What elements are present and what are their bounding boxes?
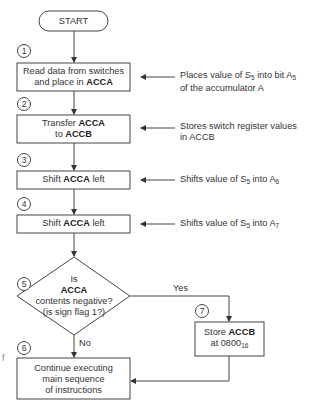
annotation-3: Shifts value of S5 into A6 (180, 174, 279, 187)
ann3-b: into A (250, 174, 276, 184)
step-number-6: 6 (17, 341, 31, 355)
box1-register: ACCA (86, 77, 113, 87)
box4-text-a: Shift (42, 218, 63, 228)
box2-line2: to ACCB (17, 129, 130, 140)
box6-line3: of instructions (17, 385, 130, 396)
ann4-s2: 7 (276, 222, 280, 229)
box4-text-b: left (90, 218, 105, 228)
step-number-1: 1 (17, 44, 31, 58)
process-box-7: Store ACCB at 080016 (195, 327, 264, 351)
annotation-2: Stores switch register values in ACCB (180, 121, 297, 143)
annotation-1: Places value of S5 into bit A5 of the ac… (180, 70, 296, 94)
box2-register-a: ACCA (78, 118, 105, 128)
box2-line2-text: to (55, 129, 65, 139)
box6-line2: main sequence (17, 374, 130, 385)
step-number-7: 7 (195, 304, 209, 318)
decision-register: ACCA (61, 285, 88, 295)
box7-address: at 0800 (211, 338, 242, 348)
process-box-6: Continue executing main sequence of inst… (17, 363, 130, 396)
step-number-4: 4 (17, 197, 31, 211)
box2-line1-text: Transfer (42, 118, 78, 128)
box3-text-a: Shift (42, 174, 63, 184)
ann1-line2: of the accumulator A (180, 83, 296, 94)
ann3-a: Shifts value of S (180, 174, 246, 184)
yes-branch-label: Yes (173, 283, 188, 293)
ann1-a: Places value of S (180, 70, 251, 80)
process-box-4: Shift ACCA left (17, 218, 130, 229)
ann2-line1: Stores switch register values (180, 121, 297, 132)
no-branch-label: No (79, 338, 91, 348)
box7-base: 16 (241, 342, 248, 349)
edge-text-fragment: f (2, 353, 5, 363)
box3-register: ACCA (63, 174, 90, 184)
start-terminator: START (39, 16, 108, 27)
box4-register: ACCA (63, 218, 90, 228)
ann4-a: Shifts value of S (180, 218, 246, 228)
decision-line3: contents negative? (24, 296, 124, 307)
process-box-2: Transfer ACCA to ACCB (17, 118, 130, 140)
decision-line4: (is sign flag 1?) (24, 307, 124, 318)
process-box-3: Shift ACCA left (17, 174, 130, 185)
process-box-1: Read data from switches and place in ACC… (17, 66, 130, 88)
ann2-line2: in ACCB (180, 132, 297, 143)
ann1-b: into bit A (255, 70, 293, 80)
decision-diamond-5: Is ACCA contents negative? (is sign flag… (24, 274, 124, 318)
decision-line1: Is (24, 274, 124, 285)
ann4-b: into A (250, 218, 276, 228)
annotation-4: Shifts value of S5 into A7 (180, 218, 279, 231)
ann3-s2: 6 (276, 178, 280, 185)
box7-register: ACCB (228, 327, 255, 337)
box1-line2-text: and place in (34, 77, 86, 87)
box1-line2: and place in ACCA (17, 77, 130, 88)
box2-line1: Transfer ACCA (17, 118, 130, 129)
start-label: START (59, 16, 88, 26)
ann1-s2: 5 (292, 74, 296, 81)
box3-text-b: left (90, 174, 105, 184)
box2-register-b: ACCB (65, 129, 92, 139)
box1-line1: Read data from switches (17, 66, 130, 77)
step-number-2: 2 (17, 97, 31, 111)
box6-line1: Continue executing (17, 363, 130, 374)
step-number-3: 3 (17, 153, 31, 167)
box7-text: Store (204, 327, 229, 337)
